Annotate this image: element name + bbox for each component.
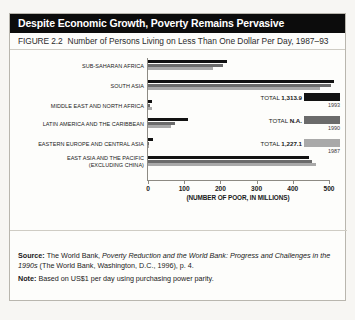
total-text: TOTAL N.A. [269, 117, 302, 124]
figure-caption-row: FIGURE 2.2Number of Persons Living on Le… [10, 33, 345, 50]
x-tick [329, 180, 330, 184]
note-label: Note: [18, 274, 36, 283]
category-label-line: LATIN AMERICA AND THE CARIBBEAN [43, 121, 144, 128]
category-label-line: EASTERN EUROPE AND CENTRAL ASIA [38, 141, 144, 148]
legend-item: TOTAL 1,313.91993 [238, 94, 346, 117]
source-text-1: The World Bank, [47, 251, 100, 260]
x-tick-label: 100 [179, 185, 190, 192]
x-axis-line [147, 180, 329, 181]
bar-1987 [148, 107, 152, 110]
total-label: TOTAL [269, 117, 290, 124]
legend-year: 1987 [328, 148, 340, 154]
page-title: Despite Economic Growth, Poverty Remains… [18, 17, 284, 29]
x-tick-label: 200 [215, 185, 226, 192]
category-label: EAST ASIA AND THE PACIFIC(EXCLUDING CHIN… [67, 155, 144, 168]
x-tick [293, 180, 294, 184]
legend-swatch [304, 139, 340, 147]
legend-swatch [304, 116, 340, 124]
bar-1987 [148, 87, 320, 90]
category-label: LATIN AMERICA AND THE CARIBBEAN [43, 121, 144, 128]
bar-1987 [148, 163, 316, 166]
source-line-2: 1990s (The World Bank, Washington, D.C.,… [18, 261, 340, 271]
x-tick-label: 300 [251, 185, 262, 192]
bar-1987 [148, 125, 171, 128]
total-text: TOTAL 1,313.9 [260, 94, 302, 101]
category-label-line: MIDDLE EAST AND NORTH AFRICA [51, 103, 144, 110]
chart: 0100200300400500 SUB-SAHARAN AFRICASOUTH… [10, 52, 347, 230]
total-value: 1,313.9 [281, 94, 302, 101]
bar-1987 [148, 67, 213, 70]
figure-container: Despite Economic Growth, Poverty Remains… [9, 13, 346, 301]
source-label: Source: [18, 251, 45, 260]
source-italic-1: Poverty Reduction and the World Bank: Pr… [102, 251, 330, 260]
legend-year: 1993 [328, 102, 340, 108]
x-tick [148, 180, 149, 184]
title-bar: Despite Economic Growth, Poverty Remains… [10, 14, 345, 33]
total-value: N.A. [290, 117, 302, 124]
legend-swatch [304, 93, 340, 101]
figure-footer: Source: The World Bank, Poverty Reductio… [10, 230, 347, 301]
category-label: MIDDLE EAST AND NORTH AFRICA [51, 103, 144, 110]
total-text: TOTAL 1,227.1 [260, 140, 302, 147]
figure-page: Despite Economic Growth, Poverty Remains… [0, 0, 355, 320]
category-label: EASTERN EUROPE AND CENTRAL ASIA [38, 141, 144, 148]
source-italic-2: 1990s [18, 261, 38, 270]
x-tick-label: 0 [146, 185, 150, 192]
legend-totals: TOTAL 1,313.91993TOTAL N.A.1990TOTAL 1,2… [238, 94, 346, 163]
category-label: SUB-SAHARAN AFRICA [82, 63, 144, 70]
legend-item: TOTAL N.A.1990 [238, 117, 346, 140]
category-label-line: EAST ASIA AND THE PACIFIC [67, 155, 144, 162]
figure-caption-text: Number of Persons Living on Less Than On… [68, 36, 329, 46]
legend-item: TOTAL 1,227.11987 [238, 140, 346, 163]
bar-group: SUB-SAHARAN AFRICA [10, 60, 347, 78]
figure-number: FIGURE 2.2 [18, 36, 63, 46]
x-tick [220, 180, 221, 184]
category-label-line: SOUTH ASIA [110, 83, 144, 90]
x-axis-title: (NUMBER OF POOR, IN MILLIONS) [147, 194, 329, 201]
note-line: Note: Based on US$1 per day using purcha… [18, 274, 340, 284]
bar-1987 [148, 145, 149, 148]
figure-caption: FIGURE 2.2Number of Persons Living on Le… [18, 36, 328, 46]
source-text-2: (The World Bank, Washington, D.C., 1996)… [40, 261, 194, 270]
total-label: TOTAL [260, 94, 281, 101]
category-label: SOUTH ASIA [110, 83, 144, 90]
note-text: Based on US$1 per day using purchasing p… [38, 274, 213, 283]
category-label-line: (EXCLUDING CHINA) [67, 162, 144, 169]
x-tick [257, 180, 258, 184]
source-line-1: Source: The World Bank, Poverty Reductio… [18, 251, 340, 261]
legend-year: 1990 [328, 125, 340, 131]
total-label: TOTAL [260, 140, 281, 147]
category-label-line: SUB-SAHARAN AFRICA [82, 63, 144, 70]
x-tick-label: 400 [287, 185, 298, 192]
x-tick [184, 180, 185, 184]
x-tick-label: 500 [323, 185, 334, 192]
total-value: 1,227.1 [281, 140, 302, 147]
